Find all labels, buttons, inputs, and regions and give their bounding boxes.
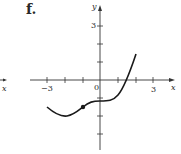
x-axis-arrow-icon (169, 78, 175, 82)
x-tick-label-neg3: −3 (41, 84, 53, 93)
marked-point (81, 105, 85, 109)
y-axis-label: y (92, 2, 97, 11)
y-axis-arrow-icon (98, 5, 102, 11)
origin-label: 0 (94, 83, 99, 92)
x-tick-label-3: 3 (151, 85, 156, 94)
x-axis-label: x (171, 83, 176, 92)
x-axis-label-left: x (2, 84, 7, 93)
y-tick-label-3: 3 (91, 21, 96, 30)
x-axis-left-arrow-icon (3, 79, 7, 82)
function-curve (47, 54, 136, 116)
